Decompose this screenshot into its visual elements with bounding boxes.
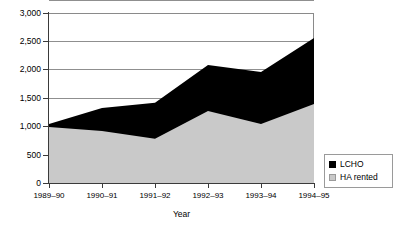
x-tick-1991-92 xyxy=(155,184,156,188)
x-axis-line xyxy=(48,183,315,184)
gray-swatch-icon xyxy=(329,174,336,181)
x-tick-1990-91 xyxy=(102,184,103,188)
legend-item-ha-rented[interactable]: HA rented xyxy=(329,171,388,183)
y-tick-1000 xyxy=(43,126,48,127)
y-tick-1500 xyxy=(43,98,48,99)
x-label-1994-95: 1994–95 xyxy=(284,191,344,200)
y-label-1500: 1,500 xyxy=(20,94,41,103)
y-label-3000: 3,000 xyxy=(20,9,41,18)
x-label-1993-94: 1993–94 xyxy=(231,191,291,200)
x-label-1990-91: 1990–91 xyxy=(72,191,132,200)
x-label-1991-92: 1991–92 xyxy=(125,191,185,200)
area-chart: 3,000 2,500 2,000 1,500 1,000 500 0 1989… xyxy=(0,0,398,235)
y-label-0: 0 xyxy=(36,179,41,188)
y-tick-0 xyxy=(43,183,48,184)
x-tick-1989-90 xyxy=(49,184,50,188)
x-label-1989-90: 1989–90 xyxy=(19,191,79,200)
x-tick-1993-94 xyxy=(261,184,262,188)
y-tick-2000 xyxy=(43,69,48,70)
y-label-2500: 2,500 xyxy=(20,37,41,46)
y-tick-2500 xyxy=(43,41,48,42)
black-swatch-icon xyxy=(329,161,336,168)
y-axis-line xyxy=(48,12,49,184)
y-label-1000: 1,000 xyxy=(20,122,41,131)
legend: LCHO HA rented xyxy=(324,154,393,188)
x-tick-1992-93 xyxy=(208,184,209,188)
x-axis-title: Year xyxy=(49,209,314,219)
legend-item-lcho[interactable]: LCHO xyxy=(329,158,388,170)
x-tick-1994-95 xyxy=(314,184,315,188)
y-label-2000: 2,000 xyxy=(20,65,41,74)
y-tick-500 xyxy=(43,155,48,156)
y-label-500: 500 xyxy=(27,151,41,160)
x-label-1992-93: 1992–93 xyxy=(178,191,238,200)
legend-label-lcho: LCHO xyxy=(340,160,364,169)
y-tick-3000 xyxy=(43,13,48,14)
legend-label-ha-rented: HA rented xyxy=(340,173,378,182)
